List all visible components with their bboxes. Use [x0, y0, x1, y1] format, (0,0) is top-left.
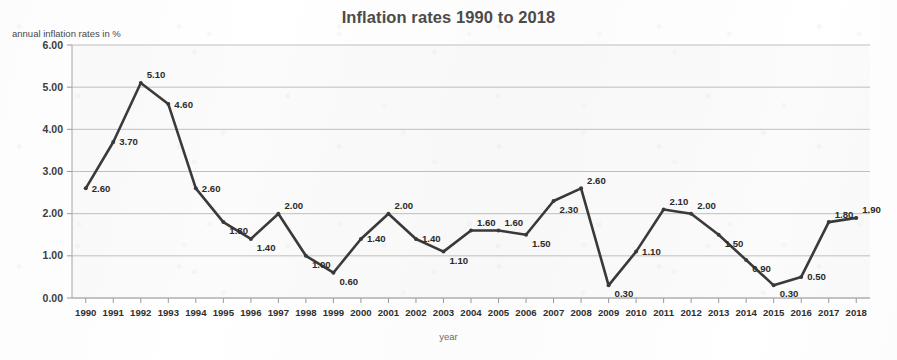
x-tick-label: 1993 — [158, 307, 179, 318]
x-tick-label: 2001 — [378, 307, 400, 318]
x-tick-label: 1998 — [295, 307, 317, 318]
data-point-marker — [744, 258, 748, 262]
data-point-marker — [552, 199, 556, 203]
data-point-label: 1.60 — [505, 217, 524, 228]
plot-area: 0.001.002.003.004.005.006.00 19901991199… — [0, 0, 897, 360]
data-point-marker — [689, 212, 693, 216]
x-tick-label: 1991 — [103, 307, 125, 318]
y-tick-label: 1.00 — [43, 249, 64, 261]
x-tick-label: 2008 — [570, 307, 592, 318]
data-point-label: 4.60 — [174, 99, 193, 110]
y-tick-label: 3.00 — [43, 165, 64, 177]
data-point-label: 0.30 — [780, 288, 799, 299]
data-point-marker — [221, 220, 225, 224]
x-tick-label: 1992 — [130, 307, 151, 318]
data-point-marker — [359, 237, 363, 241]
data-point-label: 1.80 — [229, 225, 248, 236]
x-tick-label: 2006 — [515, 307, 536, 318]
data-point-marker — [139, 81, 143, 85]
data-point-marker — [386, 212, 390, 216]
data-point-marker — [854, 216, 858, 220]
x-tick-label: 1995 — [213, 307, 235, 318]
data-point-marker — [799, 275, 803, 279]
x-tick-label: 1997 — [268, 307, 289, 318]
data-point-marker — [304, 254, 308, 258]
data-point-label: 0.90 — [752, 263, 771, 274]
data-point-marker — [497, 229, 501, 233]
data-point-marker — [84, 186, 88, 190]
data-point-label: 2.00 — [394, 200, 413, 211]
data-point-label: 1.90 — [862, 204, 881, 215]
x-tick-label: 2016 — [791, 307, 812, 318]
x-tick-label: 1994 — [185, 307, 207, 318]
data-point-label: 0.50 — [807, 271, 826, 282]
data-point-marker — [772, 283, 776, 287]
inflation-line-chart: Inflation rates 1990 to 2018 annual infl… — [0, 0, 897, 360]
data-point-label: 1.80 — [835, 209, 854, 220]
data-point-marker — [469, 229, 473, 233]
data-point-label: 1.40 — [367, 233, 386, 244]
data-point-marker — [662, 207, 666, 211]
x-tick-label: 2018 — [846, 307, 868, 318]
y-tick-label: 6.00 — [43, 39, 64, 51]
data-point-marker — [717, 233, 721, 237]
data-point-marker — [579, 186, 583, 190]
data-point-marker — [331, 271, 335, 275]
data-point-label: 5.10 — [147, 69, 166, 80]
x-tick-label: 2000 — [350, 307, 371, 318]
data-point-marker — [827, 220, 831, 224]
data-point-label: 3.70 — [119, 136, 138, 147]
data-point-marker — [524, 233, 528, 237]
x-tick-label: 2007 — [543, 307, 564, 318]
x-axis-ticks: 1990199119921993199419951996199719981999… — [75, 298, 867, 318]
data-point-label: 1.50 — [532, 238, 551, 249]
x-tick-label: 2013 — [708, 307, 729, 318]
x-tick-label: 2003 — [433, 307, 454, 318]
x-tick-label: 2005 — [488, 307, 510, 318]
data-point-label: 1.00 — [312, 259, 331, 270]
data-point-marker — [276, 212, 280, 216]
y-tick-label: 2.00 — [43, 207, 64, 219]
data-point-label: 2.60 — [587, 175, 606, 186]
y-axis-ticks: 0.001.002.003.004.005.006.00 — [43, 39, 72, 304]
x-tick-label: 2011 — [653, 307, 674, 318]
data-point-label: 2.10 — [670, 196, 689, 207]
data-point-label: 1.10 — [642, 246, 661, 257]
x-tick-label: 2012 — [680, 307, 701, 318]
data-point-label: 2.60 — [202, 183, 221, 194]
data-point-marker — [607, 283, 611, 287]
x-tick-label: 1990 — [75, 307, 96, 318]
x-tick-label: 2015 — [763, 307, 785, 318]
data-point-marker — [249, 237, 253, 241]
data-point-label: 2.60 — [92, 183, 111, 194]
data-point-label: 1.40 — [422, 233, 441, 244]
x-tick-label: 1996 — [240, 307, 261, 318]
x-tick-label: 1999 — [323, 307, 344, 318]
x-tick-label: 2017 — [818, 307, 839, 318]
x-tick-label: 2002 — [405, 307, 426, 318]
data-point-marker — [634, 250, 638, 254]
data-point-marker — [441, 250, 445, 254]
data-point-marker — [414, 237, 418, 241]
data-point-label: 1.10 — [449, 255, 468, 266]
data-point-label: 0.60 — [339, 276, 358, 287]
data-point-label: 1.40 — [257, 242, 276, 253]
x-tick-label: 2004 — [460, 307, 482, 318]
data-point-label: 2.30 — [560, 204, 579, 215]
data-point-marker — [166, 102, 170, 106]
x-tick-label: 2014 — [736, 307, 758, 318]
data-point-label: 1.50 — [725, 238, 744, 249]
data-point-marker — [111, 140, 115, 144]
x-axis-title: year — [0, 331, 897, 342]
data-point-label: 2.00 — [284, 200, 303, 211]
x-tick-label: 2009 — [598, 307, 619, 318]
y-tick-label: 4.00 — [43, 123, 64, 135]
y-tick-label: 0.00 — [43, 292, 64, 304]
data-point-label: 2.00 — [697, 200, 716, 211]
data-point-marker — [194, 186, 198, 190]
x-tick-label: 2010 — [625, 307, 646, 318]
data-point-label: 0.30 — [615, 288, 634, 299]
data-point-label: 1.60 — [477, 217, 496, 228]
y-tick-label: 5.00 — [43, 81, 64, 93]
